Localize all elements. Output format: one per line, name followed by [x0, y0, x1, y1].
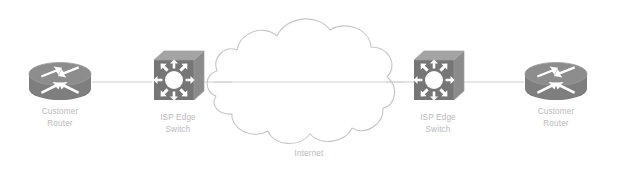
network-topology-diagram: Customer Router ISP Edge Switch ISP Edge… [0, 0, 618, 172]
switch-icon-left [154, 51, 205, 101]
label-line: Customer [512, 106, 600, 118]
label-customer-router-right: Customer Router [512, 106, 600, 129]
label-line: Internet [264, 148, 354, 160]
cloud-icon [207, 19, 394, 144]
label-internet-cloud: Internet [264, 148, 354, 160]
switch-icon-right [414, 51, 465, 101]
label-line: Customer [16, 106, 104, 118]
router-icon-left [29, 63, 91, 101]
label-line: ISP Edge [388, 112, 488, 124]
diagram-canvas [0, 0, 618, 172]
label-line: ISP Edge [128, 112, 228, 124]
label-isp-edge-switch-left: ISP Edge Switch [128, 112, 228, 135]
label-line: Switch [388, 124, 488, 136]
label-line: Router [16, 118, 104, 130]
label-customer-router-left: Customer Router [16, 106, 104, 129]
label-line: Router [512, 118, 600, 130]
label-line: Switch [128, 124, 228, 136]
router-icon-right [525, 63, 587, 101]
label-isp-edge-switch-right: ISP Edge Switch [388, 112, 488, 135]
